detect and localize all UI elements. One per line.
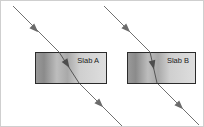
diagram-canvas: Slab A Slab B: [1, 1, 204, 127]
refraction-diagram: Slab A Slab B: [0, 0, 204, 127]
slab-a-label: Slab A: [77, 56, 99, 65]
ray-a-arrowhead-incident: [29, 23, 38, 32]
slab-b-label: Slab B: [167, 56, 189, 65]
slab-a-group: Slab A: [36, 53, 107, 84]
slab-b-group: Slab B: [128, 53, 196, 84]
